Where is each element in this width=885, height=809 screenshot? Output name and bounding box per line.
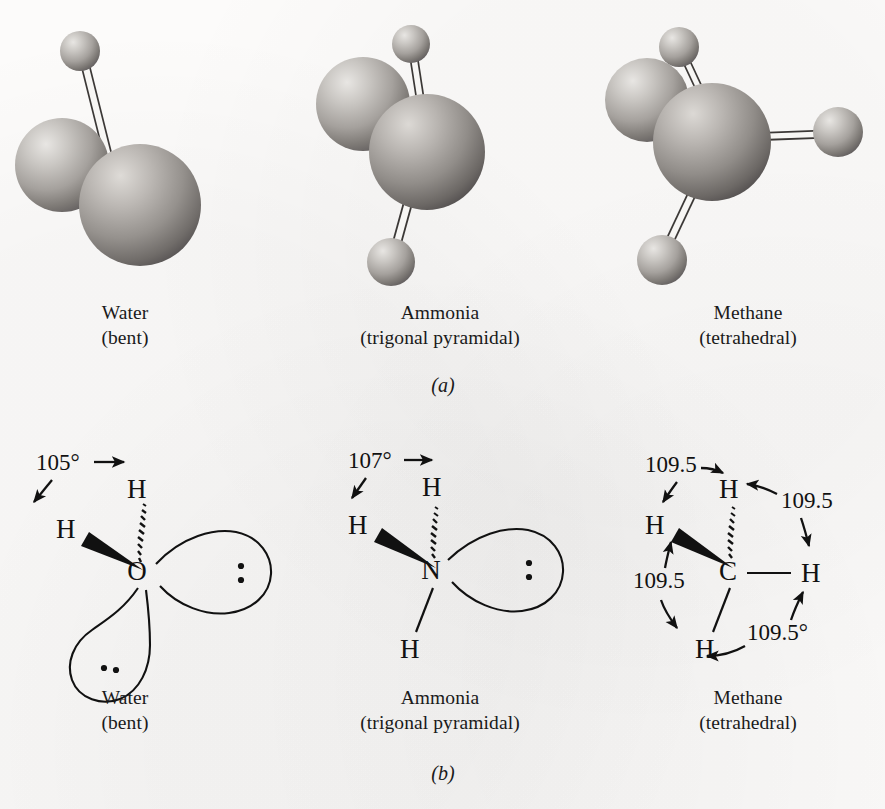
caption-methane-b-shape: (tetrahedral) xyxy=(598,710,885,735)
ammonia-lone-pair-lobe-right xyxy=(448,529,563,611)
caption-water-b: Water (bent) xyxy=(0,685,275,736)
atom-sphere-carbon-center xyxy=(653,83,771,201)
caption-water-b-shape: (bent) xyxy=(0,710,275,735)
methane-angle-arrow-top-left-down xyxy=(663,482,677,502)
caption-ammonia-b: Ammonia (trigonal pyramidal) xyxy=(290,685,590,736)
water-hydrogen-label-left: H xyxy=(56,514,76,544)
ammonia-lone-pair-dot-top xyxy=(526,560,532,566)
methane-angle-arrow-top-right xyxy=(701,468,723,473)
water-ball-and-stick-model xyxy=(10,20,240,280)
ammonia-hydrogen-label-bottom: H xyxy=(400,634,420,664)
ammonia-hydrogen-label-left: H xyxy=(348,510,368,540)
ammonia-plain-bond-bottom xyxy=(416,588,433,632)
caption-methane-a-name: Methane xyxy=(714,302,783,323)
methane-angle-label-bottom-right: 109.5° xyxy=(747,620,808,645)
methane-hydrogen-label-right: H xyxy=(801,558,821,588)
figure-label-a: (a) xyxy=(393,374,493,397)
water-hashed-wedge-bond xyxy=(138,504,146,562)
methane-hashed-wedge-bond xyxy=(728,507,735,558)
water-angle-arrow-down-left xyxy=(34,480,52,502)
water-orbital-diagram: 105° H xyxy=(10,440,285,670)
caption-methane-b: Methane (tetrahedral) xyxy=(598,685,885,736)
methane-angle-arrow-bottom-up xyxy=(791,592,803,620)
atom-sphere-hydrogen-top xyxy=(659,27,699,67)
caption-water-a: Water (bent) xyxy=(0,300,275,351)
methane-angle-label-left: 109.5 xyxy=(633,568,685,593)
methane-angle-arrow-left-down xyxy=(661,600,677,628)
water-lone-pair-lobe-right xyxy=(156,531,271,613)
methane-hydrogen-label-left: H xyxy=(645,510,665,540)
atom-sphere-hydrogen-bottom-left xyxy=(637,235,687,285)
water-center-atom-label: O xyxy=(127,556,147,586)
water-hydrogen-label-top: H xyxy=(127,474,147,504)
ammonia-hydrogen-label-top: H xyxy=(422,472,442,502)
caption-ammonia-a: Ammonia (trigonal pyramidal) xyxy=(290,300,590,351)
ammonia-orbital-diagram: 107° H H H xyxy=(300,440,575,670)
methane-angle-arrow-left-up xyxy=(665,542,671,568)
methane-hydrogen-label-top: H xyxy=(719,474,739,504)
atom-sphere-nitrogen-center xyxy=(369,94,485,210)
ammonia-center-atom-label: N xyxy=(421,555,441,585)
ammonia-lone-pair-dot-bottom xyxy=(526,574,532,580)
atom-sphere-hydrogen-bottom xyxy=(367,238,415,286)
methane-orbital-diagram: 109.5 109.5 109.5 109.5° xyxy=(595,440,880,670)
methane-center-atom-label: C xyxy=(719,556,737,586)
water-angle-label: 105° xyxy=(36,450,80,475)
ammonia-hashed-wedge-bond xyxy=(431,507,438,558)
atom-sphere-hydrogen-top-right xyxy=(392,25,430,63)
caption-methane-a-shape: (tetrahedral) xyxy=(598,325,885,350)
figure-label-b: (b) xyxy=(393,762,493,785)
methane-angle-label-right: 109.5 xyxy=(781,488,833,513)
caption-water-a-shape: (bent) xyxy=(0,325,275,350)
water-lone-pair-dot-right-top xyxy=(238,563,244,569)
water-lone-pair-dot-lower-left-1 xyxy=(101,665,107,671)
atom-sphere-hydrogen-top xyxy=(60,31,100,71)
caption-ammonia-b-name: Ammonia xyxy=(401,687,480,708)
caption-methane-b-name: Methane xyxy=(714,687,783,708)
methane-angle-arrow-right-to-h-top xyxy=(747,484,777,494)
atom-sphere-hydrogen-right xyxy=(813,107,863,157)
ammonia-ball-and-stick-model xyxy=(285,22,515,287)
caption-ammonia-b-shape: (trigonal pyramidal) xyxy=(290,710,590,735)
methane-angle-label-top-left: 109.5 xyxy=(645,452,697,477)
methane-ball-and-stick-model xyxy=(595,22,855,287)
figure-page: Water (bent) Ammonia (trigonal pyramidal… xyxy=(0,0,885,809)
ammonia-angle-arrow-down-left xyxy=(352,478,366,498)
caption-ammonia-a-shape: (trigonal pyramidal) xyxy=(290,325,590,350)
caption-methane-a: Methane (tetrahedral) xyxy=(598,300,885,351)
methane-angle-arrow-right-down xyxy=(801,518,809,546)
caption-ammonia-a-name: Ammonia xyxy=(401,302,480,323)
water-lone-pair-dot-lower-left-2 xyxy=(113,667,119,673)
water-lone-pair-dot-right-bottom xyxy=(238,577,244,583)
caption-water-b-name: Water xyxy=(102,687,149,708)
caption-water-a-name: Water xyxy=(102,302,149,323)
methane-plain-bond-bottom xyxy=(713,588,730,632)
ammonia-angle-label: 107° xyxy=(348,448,392,473)
atom-sphere-oxygen-center xyxy=(79,144,201,266)
methane-hydrogen-label-bottom: H xyxy=(695,634,715,664)
